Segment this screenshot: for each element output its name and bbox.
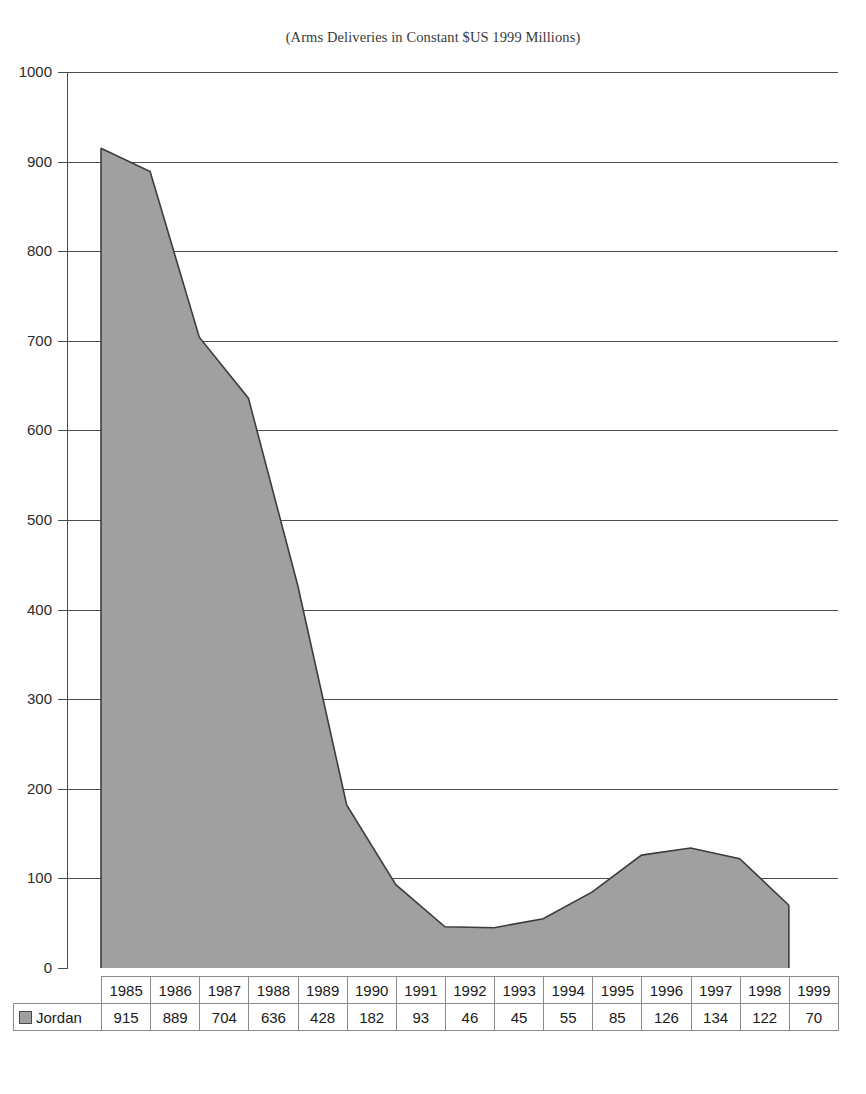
table-value-cell: 85 <box>593 1004 642 1031</box>
legend-swatch-icon <box>19 1011 32 1024</box>
table-value-cell: 126 <box>642 1004 691 1031</box>
y-tick-mark <box>58 162 67 163</box>
y-tick-label: 900 <box>6 154 52 169</box>
table-header-cell: 1988 <box>249 977 298 1004</box>
chart-title: (Arms Deliveries in Constant $US 1999 Mi… <box>0 29 866 46</box>
area-fill-shape <box>101 148 789 968</box>
area-series-jordan <box>67 72 838 968</box>
y-tick-label: 300 <box>6 691 52 706</box>
table-value-cell: 45 <box>495 1004 544 1031</box>
table-header-cell: 1993 <box>495 977 544 1004</box>
table-header-row: 1985198619871988198919901991199219931994… <box>14 977 839 1004</box>
y-tick-mark <box>58 251 67 252</box>
table-header-cell: 1995 <box>593 977 642 1004</box>
table-header-cell: 1985 <box>102 977 151 1004</box>
y-tick-mark <box>58 789 67 790</box>
table-header-cell: 1991 <box>396 977 445 1004</box>
table-header-cell: 1997 <box>691 977 740 1004</box>
y-tick-label: 700 <box>6 333 52 348</box>
y-tick-label: 200 <box>6 781 52 796</box>
y-tick-label: 600 <box>6 422 52 437</box>
y-tick-label: 400 <box>6 602 52 617</box>
y-tick-mark <box>58 341 67 342</box>
y-tick-mark <box>58 520 67 521</box>
table-corner-cell <box>14 977 102 1004</box>
plot-area <box>67 72 838 968</box>
table-header-cell: 1994 <box>544 977 593 1004</box>
table-value-cell: 704 <box>200 1004 249 1031</box>
y-tick-mark <box>58 699 67 700</box>
y-tick-mark <box>58 968 67 969</box>
table-header-cell: 1998 <box>740 977 789 1004</box>
table-header-cell: 1999 <box>789 977 838 1004</box>
y-tick-mark <box>58 878 67 879</box>
y-tick-label: 800 <box>6 243 52 258</box>
table-value-cell: 55 <box>544 1004 593 1031</box>
legend-series-label: Jordan <box>36 1009 82 1026</box>
table-value-cell: 915 <box>102 1004 151 1031</box>
table-header-cell: 1989 <box>298 977 347 1004</box>
table-header-cell: 1987 <box>200 977 249 1004</box>
legend-entry: Jordan <box>14 1004 102 1031</box>
y-tick-mark <box>58 610 67 611</box>
table-value-cell: 46 <box>445 1004 494 1031</box>
table-header-cell: 1996 <box>642 977 691 1004</box>
table-header-cell: 1992 <box>445 977 494 1004</box>
table-value-cell: 636 <box>249 1004 298 1031</box>
y-tick-label: 1000 <box>6 64 52 79</box>
table-value-cell: 428 <box>298 1004 347 1031</box>
y-tick-label: 0 <box>6 960 52 975</box>
y-tick-mark <box>58 72 67 73</box>
table-value-cell: 889 <box>151 1004 200 1031</box>
table-value-cell: 122 <box>740 1004 789 1031</box>
y-tick-label: 100 <box>6 870 52 885</box>
data-table: 1985198619871988198919901991199219931994… <box>13 976 839 1031</box>
table-value-cell: 93 <box>396 1004 445 1031</box>
y-tick-mark <box>58 430 67 431</box>
table-value-cell: 134 <box>691 1004 740 1031</box>
table-value-cell: 182 <box>347 1004 396 1031</box>
table-header-cell: 1990 <box>347 977 396 1004</box>
y-tick-label: 500 <box>6 512 52 527</box>
table-header-cell: 1986 <box>151 977 200 1004</box>
table-value-cell: 70 <box>789 1004 838 1031</box>
table-row: Jordan9158897046364281829346455585126134… <box>14 1004 839 1031</box>
